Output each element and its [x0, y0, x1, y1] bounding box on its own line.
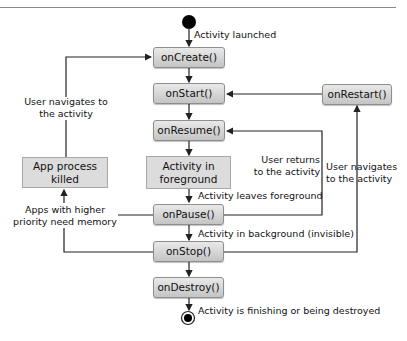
label-user-navigates-right-l2: to the activity	[326, 173, 390, 185]
app-process-killed-node: App process killed	[22, 157, 108, 188]
label-user-navigates-left: User navigates to the activity	[22, 96, 110, 120]
label-leaves-foreground: Activity leaves foreground	[198, 190, 323, 202]
label-user-returns: User returns to the activity	[248, 154, 320, 178]
label-user-navigates-left-l2: the activity	[22, 108, 110, 120]
killed-line-2: killed	[51, 173, 79, 186]
foreground-state-node: Activity in foreground	[146, 156, 231, 189]
onpause-node: onPause()	[153, 204, 224, 225]
onrestart-node: onRestart()	[322, 84, 392, 105]
label-user-returns-l2: to the activity	[248, 166, 320, 178]
onresume-node: onResume()	[153, 120, 225, 141]
start-dot	[182, 15, 196, 29]
label-user-returns-l1: User returns	[248, 154, 320, 166]
label-user-navigates-right: User navigates to the activity	[326, 161, 390, 185]
foreground-line-2: foreground	[160, 173, 218, 186]
ondestroy-node: onDestroy()	[153, 277, 224, 298]
label-background-invisible: Activity in background (invisible)	[198, 228, 354, 240]
label-activity-launched: Activity launched	[194, 29, 276, 41]
label-higher-priority: Apps with higher priority need memory	[12, 204, 118, 228]
label-finishing: Activity is finishing or being destroyed	[198, 305, 380, 317]
onstop-node: onStop()	[153, 241, 224, 262]
onstart-node: onStart()	[153, 83, 225, 104]
label-higher-priority-l1: Apps with higher	[12, 204, 118, 216]
label-user-navigates-right-l1: User navigates	[326, 161, 390, 173]
label-higher-priority-l2: priority need memory	[12, 216, 118, 228]
killed-line-1: App process	[33, 160, 97, 173]
label-user-navigates-left-l1: User navigates to	[22, 96, 110, 108]
foreground-line-1: Activity in	[162, 160, 214, 173]
oncreate-node: onCreate()	[153, 47, 225, 68]
